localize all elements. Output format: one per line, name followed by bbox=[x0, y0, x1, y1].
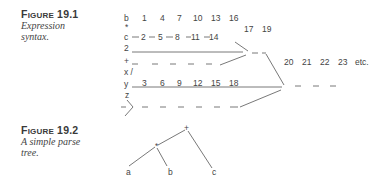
num-4: 4 bbox=[160, 14, 165, 23]
num-23: 23 bbox=[338, 58, 347, 67]
num-2: 2 bbox=[141, 33, 146, 42]
var-y: y bbox=[124, 80, 128, 89]
num-14: 14 bbox=[209, 33, 218, 42]
operator-x-slash: x / bbox=[124, 68, 133, 77]
num-19: 19 bbox=[262, 25, 271, 34]
num-5: 5 bbox=[158, 33, 163, 42]
num-9: 9 bbox=[177, 79, 182, 88]
num-17: 17 bbox=[244, 25, 253, 34]
num-15: 15 bbox=[211, 79, 220, 88]
syntax-diagram-lines bbox=[0, 0, 383, 179]
constant-2: 2 bbox=[124, 44, 129, 53]
tree-root-plus: + bbox=[184, 124, 189, 133]
parse-tree-edges bbox=[129, 130, 212, 168]
tree-node-star: * bbox=[155, 142, 158, 151]
num-11: 11 bbox=[191, 33, 200, 42]
tree-leaf-c: c bbox=[212, 168, 216, 177]
num-6: 6 bbox=[160, 79, 165, 88]
var-c: c bbox=[124, 33, 128, 42]
num-8: 8 bbox=[175, 33, 180, 42]
etc-label: etc. bbox=[355, 58, 369, 67]
num-7: 7 bbox=[177, 14, 182, 23]
num-20: 20 bbox=[284, 58, 293, 67]
tree-leaf-a: a bbox=[126, 168, 131, 177]
num-16: 16 bbox=[229, 14, 238, 23]
var-z: z bbox=[125, 91, 129, 100]
num-18: 18 bbox=[229, 79, 238, 88]
num-10: 10 bbox=[193, 14, 202, 23]
num-22: 22 bbox=[320, 58, 329, 67]
num-13: 13 bbox=[211, 14, 220, 23]
tree-leaf-b: b bbox=[168, 168, 173, 177]
num-21: 21 bbox=[302, 58, 311, 67]
num-3: 3 bbox=[142, 79, 147, 88]
num-1: 1 bbox=[142, 14, 147, 23]
operator-plus: + bbox=[124, 57, 129, 66]
num-12: 12 bbox=[193, 79, 202, 88]
operator-star: * bbox=[125, 23, 128, 32]
